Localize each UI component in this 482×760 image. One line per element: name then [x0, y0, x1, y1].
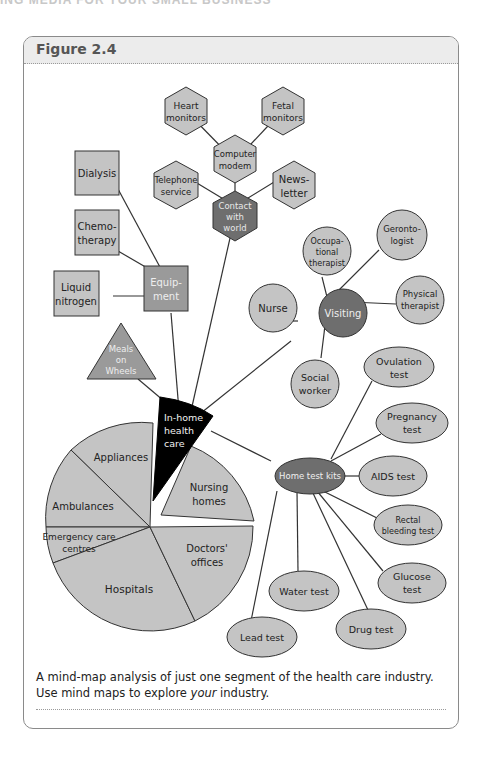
- svg-text:world: world: [223, 223, 246, 233]
- svg-text:Glucose: Glucose: [393, 571, 431, 582]
- svg-text:Geronto-: Geronto-: [383, 224, 420, 234]
- svg-text:tional: tional: [316, 248, 338, 257]
- hex-computer-modem: Computer modem: [214, 135, 257, 183]
- svg-text:Visiting: Visiting: [325, 308, 362, 319]
- svg-text:logist: logist: [390, 236, 414, 246]
- caption-divider: [36, 709, 446, 710]
- svg-text:Telephone: Telephone: [153, 175, 197, 185]
- svg-text:Lead test: Lead test: [240, 632, 284, 643]
- ellipse-drug-test: Drug test: [336, 609, 406, 649]
- svg-text:letter: letter: [280, 188, 308, 199]
- svg-text:Ambulances: Ambulances: [52, 501, 113, 512]
- box-equipment: Equip- ment: [144, 266, 188, 311]
- svg-text:Doctors': Doctors': [186, 543, 227, 554]
- svg-text:monitors: monitors: [263, 113, 303, 123]
- svg-text:Chemo-: Chemo-: [77, 221, 117, 232]
- svg-text:Heart: Heart: [173, 101, 199, 111]
- figure-box: Figure 2.4: [23, 36, 459, 729]
- svg-text:Appliances: Appliances: [94, 452, 148, 463]
- svg-text:therapist: therapist: [309, 259, 345, 268]
- circle-gerontologist: Geronto- logist: [377, 210, 427, 260]
- hex-fetal-monitors: Fetal monitors: [262, 87, 304, 135]
- svg-text:nitrogen: nitrogen: [55, 296, 97, 307]
- svg-text:test: test: [403, 584, 422, 595]
- circle-visiting: Visiting: [319, 289, 367, 337]
- svg-text:test: test: [390, 369, 409, 380]
- circle-physical-therapist: Physical therapist: [396, 276, 444, 324]
- svg-text:therapist: therapist: [401, 301, 440, 311]
- svg-text:worker: worker: [299, 385, 331, 396]
- circle-occupational-therapist: Occupa- tional therapist: [303, 227, 351, 275]
- svg-text:Liquid: Liquid: [61, 282, 91, 293]
- svg-text:Equip-: Equip-: [150, 277, 182, 288]
- ellipse-home-test-kits: Home test kits: [275, 458, 345, 494]
- svg-text:with: with: [226, 212, 244, 222]
- svg-text:bleeding test: bleeding test: [382, 527, 435, 536]
- svg-text:Water test: Water test: [279, 586, 329, 597]
- pie-industry-segments: [46, 422, 254, 631]
- circle-nurse: Nurse: [249, 284, 297, 332]
- ellipse-lead-test: Lead test: [227, 617, 297, 657]
- svg-text:AIDS test: AIDS test: [371, 471, 415, 482]
- svg-text:Physical: Physical: [403, 289, 438, 299]
- svg-text:Nurse: Nurse: [258, 303, 287, 314]
- box-liquid-nitrogen: Liquid nitrogen: [54, 271, 99, 316]
- svg-text:Contact: Contact: [218, 201, 252, 211]
- svg-text:Occupa-: Occupa-: [310, 237, 343, 246]
- svg-text:Dialysis: Dialysis: [78, 168, 117, 179]
- svg-text:In-home: In-home: [164, 412, 203, 423]
- svg-text:health: health: [164, 425, 194, 436]
- ellipse-glucose-test: Glucose test: [378, 563, 446, 603]
- svg-text:Wheels: Wheels: [105, 366, 137, 376]
- hex-newsletter: News- letter: [273, 161, 315, 209]
- svg-text:Drug test: Drug test: [349, 624, 394, 635]
- box-chemotherapy: Chemo- therapy: [75, 210, 119, 255]
- svg-text:ment: ment: [153, 291, 179, 302]
- svg-text:homes: homes: [192, 496, 226, 507]
- svg-text:Pregnancy: Pregnancy: [387, 411, 437, 422]
- svg-text:test: test: [403, 424, 422, 435]
- box-dialysis: Dialysis: [75, 151, 119, 195]
- ellipse-rectal-bleeding-test: Rectal bleeding test: [374, 505, 442, 545]
- svg-text:Rectal: Rectal: [396, 516, 421, 525]
- caption-text-end: industry.: [216, 686, 269, 700]
- hex-heart-monitors: Heart monitors: [165, 87, 207, 135]
- ellipse-pregnancy-test: Pregnancy test: [376, 403, 448, 443]
- svg-text:Emergency care: Emergency care: [42, 532, 116, 542]
- triangle-meals-on-wheels: Meals on Wheels: [87, 323, 156, 379]
- svg-text:Computer: Computer: [214, 149, 257, 159]
- mind-map: Heart monitors Fetal monitors Computer m…: [24, 37, 458, 667]
- svg-text:Social: Social: [301, 372, 329, 383]
- running-head: ING MEDIA FOR YOUR SMALL BUSINESS: [0, 0, 271, 7]
- svg-text:on: on: [116, 355, 127, 365]
- caption-emphasis: your: [191, 686, 217, 700]
- svg-text:offices: offices: [191, 557, 224, 568]
- svg-text:Fetal: Fetal: [272, 101, 294, 111]
- ellipse-ovulation-test: Ovulation test: [364, 347, 434, 387]
- hex-contact-with-world: Contact with world: [213, 191, 257, 241]
- svg-text:centres: centres: [62, 544, 96, 554]
- figure-caption: A mind-map analysis of just one segment …: [36, 669, 446, 701]
- circle-social-worker: Social worker: [291, 360, 339, 408]
- svg-text:News-: News-: [279, 174, 310, 185]
- svg-text:service: service: [161, 187, 191, 197]
- svg-text:Meals: Meals: [109, 344, 134, 354]
- svg-text:Hospitals: Hospitals: [105, 583, 153, 595]
- ellipse-aids-test: AIDS test: [359, 456, 427, 496]
- svg-text:Nursing: Nursing: [190, 482, 229, 493]
- svg-text:Home test kits: Home test kits: [279, 471, 341, 481]
- svg-text:therapy: therapy: [78, 235, 117, 246]
- svg-text:Ovulation: Ovulation: [376, 356, 422, 367]
- svg-text:care: care: [164, 438, 185, 449]
- hex-telephone-service: Telephone service: [153, 161, 198, 209]
- svg-text:monitors: monitors: [166, 113, 206, 123]
- svg-text:modem: modem: [219, 161, 251, 171]
- ellipse-water-test: Water test: [269, 571, 339, 611]
